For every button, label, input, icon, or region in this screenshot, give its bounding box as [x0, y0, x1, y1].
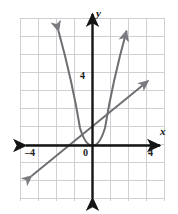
line-y-equals-x — [32, 81, 149, 176]
coordinate-plane-svg — [0, 0, 178, 214]
origin-label: 0 — [83, 148, 88, 158]
x-tick-label-4: 4 — [148, 148, 153, 158]
y-axis-label: y — [96, 8, 101, 19]
x-tick-label-minus-4: –4 — [25, 148, 35, 158]
y-tick-label-4: 4 — [80, 71, 85, 81]
graph-figure: y x 0 4 4 –4 — [0, 0, 178, 214]
x-axis-label: x — [160, 126, 166, 137]
